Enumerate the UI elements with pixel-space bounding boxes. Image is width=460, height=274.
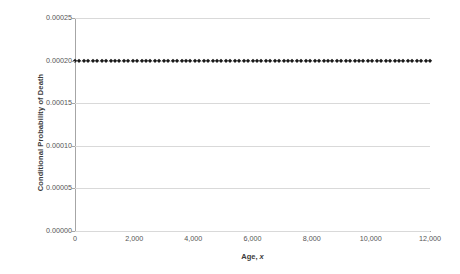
x-axis-tick-label: 10,000 <box>360 234 382 243</box>
x-axis-title-text: Age, <box>241 252 259 261</box>
y-axis-tick-label: 0.00020 <box>4 56 72 65</box>
y-axis-tick-labels: 0.000000.000050.000100.000150.000200.000… <box>0 0 72 274</box>
x-axis-tick-label: 6,000 <box>244 234 262 243</box>
data-point-marker <box>428 58 433 63</box>
x-axis-title: Age, x <box>75 252 430 261</box>
y-axis-tick-label: 0.00005 <box>4 183 72 192</box>
y-gridline <box>75 188 430 189</box>
y-axis-tick-label: 0.00000 <box>4 226 72 235</box>
y-axis-tick-mark <box>71 103 75 104</box>
y-axis-tick-label: 0.00015 <box>4 98 72 107</box>
x-axis-tick-label: 12,000 <box>419 234 441 243</box>
x-axis-title-variable: x <box>260 252 264 261</box>
y-axis-tick-mark <box>71 61 75 62</box>
y-gridline <box>75 18 430 19</box>
y-gridline <box>75 231 430 232</box>
x-axis-tick-label: 2,000 <box>125 234 143 243</box>
chart-container: Conditional Probability of Death 0.00000… <box>0 0 460 274</box>
y-axis-tick-mark <box>71 231 75 232</box>
y-gridline <box>75 103 430 104</box>
x-axis-tick-label: 0 <box>73 234 77 243</box>
y-gridline <box>75 146 430 147</box>
y-axis-tick-mark <box>71 188 75 189</box>
y-axis-tick-mark <box>71 18 75 19</box>
y-axis-tick-label: 0.00025 <box>4 13 72 22</box>
y-axis-tick-mark <box>71 146 75 147</box>
x-axis-tick-label: 8,000 <box>303 234 321 243</box>
x-axis-tick-label: 4,000 <box>184 234 202 243</box>
y-axis-tick-label: 0.00010 <box>4 141 72 150</box>
plot-area <box>75 18 430 231</box>
